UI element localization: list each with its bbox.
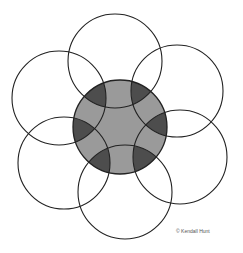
- copyright-notice: © Kendall Hunt: [176, 228, 210, 234]
- circles-diagram: [0, 0, 243, 253]
